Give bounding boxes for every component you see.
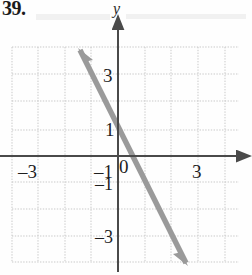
y-tick-label-3: 3: [103, 66, 113, 85]
coordinate-plane: [0, 0, 252, 275]
x-tick-label-3: 3: [192, 162, 202, 181]
axes: [0, 26, 240, 272]
y-tick-label-neg1: –1: [95, 175, 113, 193]
origin-label: 0: [119, 157, 129, 176]
figure-canvas: 39. y: [0, 0, 252, 275]
x-tick-label-neg3: –3: [18, 162, 37, 181]
grid-lines: [12, 47, 239, 262]
y-tick-label-1: 1: [105, 120, 115, 139]
y-tick-label-neg3: –3: [95, 228, 113, 246]
